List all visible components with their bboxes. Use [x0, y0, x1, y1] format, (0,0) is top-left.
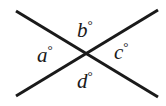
angle-label-a: a°: [37, 43, 53, 66]
angle-label-c: c°: [114, 40, 129, 63]
degree-symbol-a: °: [48, 42, 53, 57]
angle-letter-c: c: [114, 40, 123, 64]
angle-letter-a: a: [37, 43, 48, 67]
degree-symbol-c: °: [123, 39, 128, 54]
angle-label-d: d°: [77, 69, 93, 92]
degree-symbol-d: °: [88, 68, 93, 83]
angle-letter-d: d: [77, 69, 88, 93]
degree-symbol-b: °: [88, 17, 93, 32]
angle-letter-b: b: [77, 18, 88, 42]
angle-diagram-figure: a° b° c° d°: [0, 0, 166, 106]
angle-label-b: b°: [77, 18, 93, 41]
